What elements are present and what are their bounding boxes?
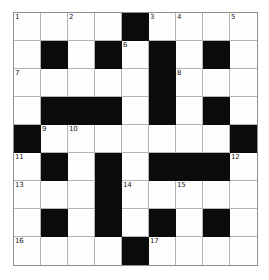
crossword-cell[interactable]: [41, 237, 68, 265]
crossword-block-cell: [68, 97, 95, 125]
crossword-cell[interactable]: 5: [230, 13, 257, 41]
clue-number: 1: [15, 13, 19, 21]
crossword-block-cell: [149, 97, 176, 125]
crossword-cell[interactable]: 2: [68, 13, 95, 41]
clue-number: 7: [15, 69, 19, 77]
crossword-block-cell: [95, 153, 122, 181]
crossword-cell[interactable]: 12: [230, 153, 257, 181]
crossword-cell[interactable]: [68, 237, 95, 265]
crossword-cell[interactable]: [122, 97, 149, 125]
clue-number: 15: [177, 181, 186, 189]
crossword-cell[interactable]: 4: [176, 13, 203, 41]
clue-number: 16: [15, 237, 24, 245]
clue-number: 3: [150, 13, 154, 21]
clue-number: 17: [150, 237, 159, 245]
clue-number: 11: [15, 153, 24, 161]
crossword-cell[interactable]: [68, 181, 95, 209]
clue-number: 14: [123, 181, 132, 189]
crossword-cell[interactable]: [176, 237, 203, 265]
crossword-cell[interactable]: [122, 69, 149, 97]
crossword-cell[interactable]: 17: [149, 237, 176, 265]
crossword-puzzle-container: 1234567891011121314151617: [0, 0, 269, 280]
crossword-cell[interactable]: [149, 181, 176, 209]
clue-number: 10: [69, 125, 78, 133]
crossword-grid[interactable]: 1234567891011121314151617: [13, 12, 258, 266]
crossword-cell[interactable]: 1: [14, 13, 41, 41]
crossword-cell[interactable]: [176, 125, 203, 153]
crossword-cell[interactable]: [203, 69, 230, 97]
crossword-cell[interactable]: [149, 125, 176, 153]
crossword-cell[interactable]: 11: [14, 153, 41, 181]
crossword-cell[interactable]: 8: [176, 69, 203, 97]
crossword-block-cell: [149, 209, 176, 237]
crossword-cell[interactable]: [230, 209, 257, 237]
crossword-cell[interactable]: [122, 153, 149, 181]
crossword-cell[interactable]: [14, 41, 41, 69]
crossword-cell[interactable]: [230, 69, 257, 97]
crossword-cell[interactable]: [14, 209, 41, 237]
clue-number: 12: [231, 153, 240, 161]
crossword-cell[interactable]: 15: [176, 181, 203, 209]
crossword-cell[interactable]: [95, 13, 122, 41]
crossword-block-cell: [14, 125, 41, 153]
crossword-block-cell: [41, 41, 68, 69]
crossword-cell[interactable]: [41, 13, 68, 41]
crossword-cell[interactable]: [203, 181, 230, 209]
crossword-block-cell: [149, 153, 176, 181]
clue-number: 6: [123, 41, 127, 49]
crossword-cell[interactable]: [122, 125, 149, 153]
crossword-block-cell: [122, 237, 149, 265]
crossword-cell[interactable]: 13: [14, 181, 41, 209]
crossword-cell[interactable]: [68, 209, 95, 237]
crossword-cell[interactable]: [176, 209, 203, 237]
clue-number: 4: [177, 13, 181, 21]
clue-number: 13: [15, 181, 24, 189]
crossword-block-cell: [203, 153, 230, 181]
crossword-cell[interactable]: 6: [122, 41, 149, 69]
crossword-block-cell: [95, 209, 122, 237]
crossword-cell[interactable]: [176, 41, 203, 69]
crossword-cell[interactable]: [122, 209, 149, 237]
crossword-cell[interactable]: [41, 69, 68, 97]
crossword-cell[interactable]: [68, 41, 95, 69]
crossword-block-cell: [149, 69, 176, 97]
clue-number: 9: [42, 125, 46, 133]
crossword-cell[interactable]: [230, 97, 257, 125]
crossword-cell[interactable]: [95, 237, 122, 265]
crossword-cell[interactable]: [203, 125, 230, 153]
crossword-cell[interactable]: 14: [122, 181, 149, 209]
crossword-cell[interactable]: [14, 97, 41, 125]
crossword-block-cell: [122, 13, 149, 41]
crossword-cell[interactable]: 7: [14, 69, 41, 97]
crossword-block-cell: [203, 209, 230, 237]
crossword-cell[interactable]: [230, 181, 257, 209]
crossword-block-cell: [149, 41, 176, 69]
crossword-block-cell: [176, 153, 203, 181]
crossword-block-cell: [41, 209, 68, 237]
crossword-cell[interactable]: [68, 69, 95, 97]
crossword-block-cell: [203, 97, 230, 125]
crossword-block-cell: [203, 41, 230, 69]
clue-number: 8: [177, 69, 181, 77]
crossword-cell[interactable]: 3: [149, 13, 176, 41]
crossword-block-cell: [41, 97, 68, 125]
crossword-block-cell: [41, 153, 68, 181]
crossword-cell[interactable]: 16: [14, 237, 41, 265]
crossword-cell[interactable]: [176, 97, 203, 125]
crossword-cell[interactable]: [95, 125, 122, 153]
crossword-block-cell: [95, 41, 122, 69]
crossword-cell[interactable]: [95, 69, 122, 97]
clue-number: 5: [231, 13, 235, 21]
crossword-cell[interactable]: [203, 237, 230, 265]
crossword-cell[interactable]: [203, 13, 230, 41]
crossword-cell[interactable]: [41, 181, 68, 209]
crossword-cell[interactable]: [230, 237, 257, 265]
crossword-cell[interactable]: 10: [68, 125, 95, 153]
clue-number: 2: [69, 13, 73, 21]
crossword-cell[interactable]: 9: [41, 125, 68, 153]
crossword-block-cell: [95, 97, 122, 125]
crossword-cell[interactable]: [68, 153, 95, 181]
crossword-block-cell: [230, 125, 257, 153]
crossword-block-cell: [95, 181, 122, 209]
crossword-cell[interactable]: [230, 41, 257, 69]
